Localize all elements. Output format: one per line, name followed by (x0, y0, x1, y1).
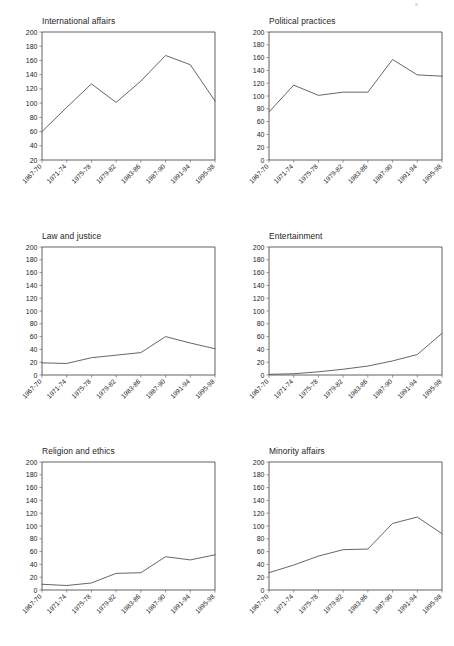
x-tick-label: 1991-94 (169, 593, 191, 615)
data-series-line (42, 55, 215, 131)
figure-page: International affairs 204060801001201401… (0, 0, 454, 646)
plot-frame (269, 247, 442, 375)
y-tick-label: 120 (26, 295, 38, 302)
x-tick-label: 1967-70 (248, 163, 270, 185)
x-tick-label: 1975-78 (70, 593, 92, 615)
x-tick-label: 1975-78 (70, 378, 92, 400)
x-tick-label: 1967-70 (248, 378, 270, 400)
x-tick-label: 1991-94 (169, 378, 191, 400)
data-series-line (269, 333, 442, 374)
x-tick-label: 1995-98 (421, 163, 443, 185)
y-tick-label: 140 (253, 67, 265, 74)
chart-panel-religion-and-ethics: Religion and ethics 02040608010012014016… (0, 430, 227, 646)
y-tick-label: 20 (257, 574, 265, 581)
x-tick-label: 1987-90 (144, 378, 166, 400)
y-tick-label: 80 (30, 114, 38, 121)
x-tick-label: 1971-74 (272, 378, 294, 400)
y-tick-label: 140 (26, 497, 38, 504)
x-tick-label: 1991-94 (169, 163, 191, 185)
x-tick-label: 1971-74 (45, 378, 67, 400)
y-tick-label: 140 (26, 282, 38, 289)
plot-frame (42, 32, 215, 160)
y-tick-label: 180 (26, 471, 38, 478)
x-tick-label: 1967-70 (21, 378, 43, 400)
plot-frame (269, 462, 442, 590)
y-tick-label: 80 (257, 535, 265, 542)
chart-panel-entertainment: Entertainment 02040608010012014016018020… (227, 215, 454, 430)
y-tick-label: 160 (26, 269, 38, 276)
y-tick-label: 200 (26, 459, 38, 466)
x-tick-label: 1979-82 (95, 593, 117, 615)
x-tick-label: 1987-90 (371, 593, 393, 615)
y-tick-label: 20 (257, 359, 265, 366)
x-tick-label: 1979-82 (95, 163, 117, 185)
x-tick-label: 1983-86 (120, 593, 142, 615)
y-tick-label: 160 (26, 484, 38, 491)
x-tick-label: 1987-90 (371, 378, 393, 400)
plot-frame (42, 247, 215, 375)
plot-frame (269, 32, 442, 160)
y-tick-label: 120 (26, 85, 38, 92)
x-tick-label: 1995-98 (194, 163, 216, 185)
chart-panel-political-practices: Political practices 02040608010012014016… (227, 0, 454, 215)
y-tick-label: 120 (253, 80, 265, 87)
y-tick-label: 200 (26, 244, 38, 251)
y-tick-label: 200 (253, 459, 265, 466)
x-tick-label: 1979-82 (322, 163, 344, 185)
x-tick-label: 1987-90 (144, 163, 166, 185)
chart-panel-law-and-justice: Law and justice 020406080100120140160180… (0, 215, 227, 430)
y-tick-label: 60 (257, 548, 265, 555)
y-tick-label: 140 (253, 282, 265, 289)
y-tick-label: 40 (257, 131, 265, 138)
x-tick-label: 1983-86 (347, 378, 369, 400)
y-tick-label: 160 (253, 269, 265, 276)
plot-frame (42, 462, 215, 590)
x-tick-label: 1975-78 (70, 163, 92, 185)
y-tick-label: 60 (257, 333, 265, 340)
chart-svg: 0204060801001201401601802001967-701971-7… (227, 215, 454, 430)
x-tick-label: 1967-70 (21, 163, 43, 185)
x-tick-label: 1991-94 (396, 163, 418, 185)
y-tick-label: 160 (26, 57, 38, 64)
y-tick-label: 100 (253, 93, 265, 100)
y-tick-label: 40 (30, 561, 38, 568)
y-tick-label: 200 (253, 29, 265, 36)
y-tick-label: 40 (257, 561, 265, 568)
y-tick-label: 140 (253, 497, 265, 504)
x-tick-label: 1983-86 (120, 378, 142, 400)
x-tick-label: 1987-90 (371, 163, 393, 185)
y-tick-label: 60 (30, 128, 38, 135)
x-tick-label: 1991-94 (396, 593, 418, 615)
y-tick-label: 40 (257, 346, 265, 353)
x-tick-label: 1971-74 (272, 593, 294, 615)
y-tick-label: 80 (257, 105, 265, 112)
x-tick-label: 1983-86 (347, 163, 369, 185)
y-tick-label: 60 (30, 333, 38, 340)
chart-svg: 204060801001201401601802001967-701971-74… (0, 0, 227, 215)
x-tick-label: 1983-86 (347, 593, 369, 615)
y-tick-label: 180 (253, 471, 265, 478)
y-tick-label: 40 (30, 142, 38, 149)
y-tick-label: 160 (253, 54, 265, 61)
y-tick-label: 180 (253, 41, 265, 48)
y-tick-label: 120 (26, 510, 38, 517)
y-tick-label: 120 (253, 295, 265, 302)
y-tick-label: 100 (26, 308, 38, 315)
y-tick-label: 100 (253, 523, 265, 530)
x-tick-label: 1967-70 (21, 593, 43, 615)
x-tick-label: 1975-78 (297, 593, 319, 615)
y-tick-label: 80 (30, 535, 38, 542)
y-tick-label: 80 (30, 320, 38, 327)
y-tick-label: 180 (253, 256, 265, 263)
chart-panel-minority-affairs: Minority affairs 02040608010012014016018… (227, 430, 454, 646)
chart-svg: 0204060801001201401601802001967-701971-7… (0, 430, 227, 645)
x-tick-label: 1995-98 (194, 378, 216, 400)
y-tick-label: 100 (26, 523, 38, 530)
x-tick-label: 1987-90 (144, 593, 166, 615)
x-tick-label: 1975-78 (297, 163, 319, 185)
data-series-line (269, 517, 442, 573)
y-tick-label: 20 (30, 574, 38, 581)
y-tick-label: 80 (257, 320, 265, 327)
chart-svg: 0204060801001201401601802001967-701971-7… (227, 430, 454, 645)
data-series-line (42, 337, 215, 364)
